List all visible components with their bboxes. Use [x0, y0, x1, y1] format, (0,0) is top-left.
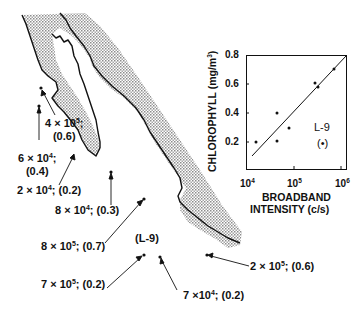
y-tick-label: 0.2	[225, 136, 239, 147]
y-tick-label: 0.8	[225, 49, 239, 60]
y-tick-label: 0.6	[225, 78, 239, 89]
x-tick-label: 104	[240, 178, 255, 189]
y-axis-label: CHLOROPHYLL (mg/m3)	[206, 51, 218, 172]
station-label: 7 ×104; (0.2)	[183, 289, 244, 302]
region-label: (L-9)	[135, 232, 159, 245]
station-label: 6 × 104; (0.4)	[18, 152, 57, 178]
chart-annotation: L-9	[314, 121, 330, 133]
station-label: 2 × 104; (0.2)	[17, 184, 81, 197]
x-tick-label: 106	[335, 178, 350, 189]
station-label: 2 × 105; (0.6)	[250, 260, 314, 273]
station-label: 8 × 105; (0.7)	[41, 240, 105, 253]
station-label: 4 × 105; (0.6)	[45, 117, 84, 143]
station-label: 8 × 104; (0.3)	[55, 204, 119, 217]
x-axis-label-line2: INTENSITY (c/s)	[250, 203, 329, 215]
y-tick-label: 0.4	[225, 107, 239, 118]
x-tick-label: 105	[287, 178, 302, 189]
chart-annotation-marker: (•)	[317, 137, 328, 149]
x-axis-label-line1: BROADBAND	[262, 191, 331, 203]
station-label: 7 × 105; (0.2)	[41, 278, 105, 291]
